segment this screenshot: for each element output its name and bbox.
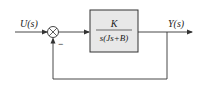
block-denominator: s(Js+B) xyxy=(100,33,129,43)
minus-sign: − xyxy=(58,39,63,49)
output-label: Y(s) xyxy=(168,18,185,30)
input-label: U(s) xyxy=(20,18,38,30)
summing-junction xyxy=(48,27,59,38)
block-diagram: U(s) − K s(Js+B) Y(s) xyxy=(0,0,200,88)
transfer-function-block: K s(Js+B) xyxy=(90,10,138,52)
block-numerator: K xyxy=(110,18,119,29)
